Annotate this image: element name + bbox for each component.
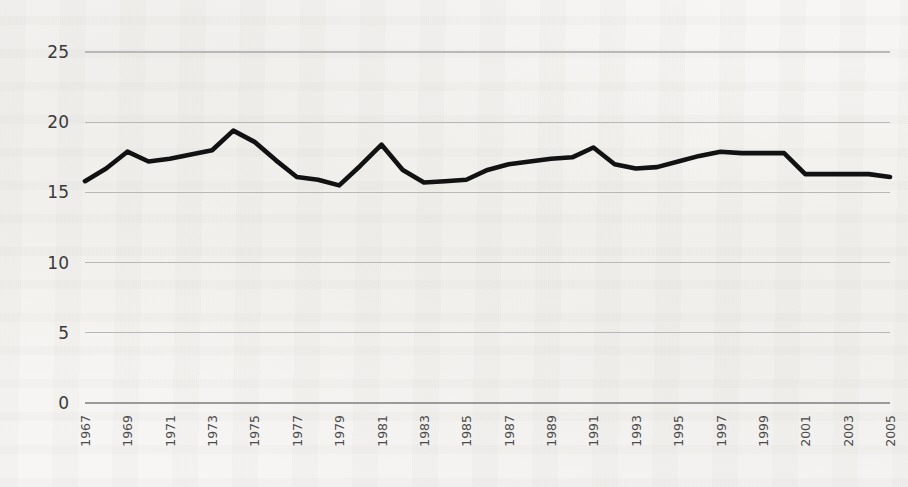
- x-axis-tick-labels: 1967196919711973197519771979198119831985…: [78, 415, 898, 447]
- y-tick-label: 20: [47, 112, 69, 132]
- y-tick-label: 5: [58, 323, 69, 343]
- x-tick-label: 1993: [629, 415, 644, 447]
- y-tick-label: 15: [47, 182, 69, 202]
- x-tick-label: 1995: [671, 415, 686, 447]
- x-tick-label: 2005: [883, 415, 898, 447]
- data-series: [85, 131, 890, 186]
- x-tick-label: 1999: [756, 415, 771, 447]
- y-tick-label: 25: [47, 42, 69, 62]
- x-tick-label: 1975: [247, 415, 262, 447]
- chart-canvas: 0510152025 19671969197119731975197719791…: [0, 0, 908, 487]
- x-tick-label: 2003: [841, 415, 856, 447]
- x-tick-label: 1991: [586, 415, 601, 447]
- x-tick-label: 1977: [290, 415, 305, 447]
- x-tick-label: 1985: [459, 415, 474, 447]
- x-tick-label: 1969: [120, 415, 135, 447]
- x-tick-label: 1983: [417, 415, 432, 447]
- gridlines: [85, 52, 890, 403]
- y-tick-label: 10: [47, 253, 69, 273]
- x-tick-label: 1989: [544, 415, 559, 447]
- y-tick-label: 0: [58, 393, 69, 413]
- line-chart: 0510152025 19671969197119731975197719791…: [0, 0, 908, 487]
- data-line-series-1: [85, 131, 890, 186]
- x-tick-label: 1997: [714, 415, 729, 447]
- x-tick-label: 1967: [78, 415, 93, 447]
- x-tick-label: 1981: [375, 415, 390, 447]
- x-tick-label: 2001: [798, 415, 813, 447]
- x-tick-label: 1971: [163, 415, 178, 447]
- x-tick-label: 1973: [205, 415, 220, 447]
- x-tick-label: 1987: [502, 415, 517, 447]
- y-axis-tick-labels: 0510152025: [47, 42, 69, 413]
- x-tick-label: 1979: [332, 415, 347, 447]
